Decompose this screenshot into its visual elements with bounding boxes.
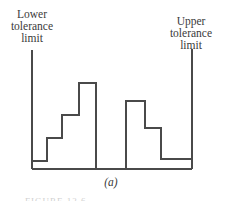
subfigure-label: (a): [100, 176, 122, 188]
figure-caption-partial: FIGURE 12.6: [25, 196, 87, 201]
right-histogram-outline: [126, 101, 192, 169]
histogram-diagram: [0, 0, 225, 201]
left-histogram-outline: [32, 83, 96, 169]
